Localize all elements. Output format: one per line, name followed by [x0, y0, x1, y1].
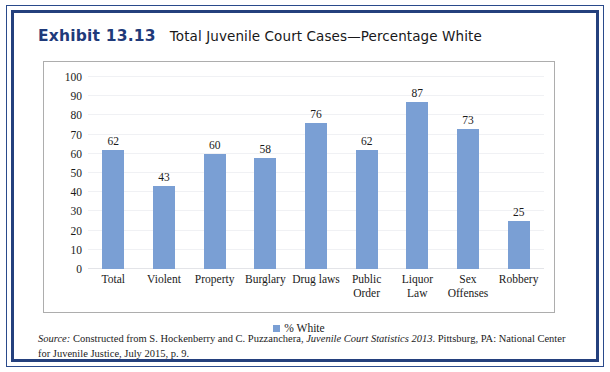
- x-axis-category-label-line: Robbery: [493, 272, 544, 286]
- bar: [457, 129, 479, 269]
- bar-value-label: 58: [260, 143, 272, 155]
- exhibit-title-row: Exhibit 13.13Total Juvenile Court Cases—…: [38, 27, 482, 45]
- x-axis-category-label-line: Sex: [443, 272, 494, 286]
- page-title: Total Juvenile Court Cases—Percentage Wh…: [170, 28, 482, 44]
- bar-group: 62: [88, 77, 139, 269]
- bar: [102, 150, 124, 269]
- x-axis-category-labels: TotalViolentPropertyBurglaryDrug lawsPub…: [88, 272, 544, 312]
- plot-area: 624360587662877325: [88, 77, 544, 269]
- x-axis-category-label: Robbery: [493, 272, 544, 286]
- exhibit-page: Exhibit 13.13Total Juvenile Court Cases—…: [0, 0, 610, 372]
- x-axis-category-label-line: Drug laws: [291, 272, 342, 286]
- y-axis-tick-label: 40: [71, 186, 83, 198]
- source-text-before: Constructed from S. Hockenberry and C. P…: [70, 333, 306, 344]
- bar-group: 43: [139, 77, 190, 269]
- bar-group: 76: [291, 77, 342, 269]
- bar-value-label: 43: [158, 171, 170, 183]
- exhibit-content: Exhibit 13.13Total Juvenile Court Cases—…: [16, 15, 594, 357]
- bar-value-label: 87: [412, 87, 424, 99]
- source-note: Source: Constructed from S. Hockenberry …: [38, 331, 572, 361]
- bar-group: 62: [341, 77, 392, 269]
- bar: [406, 102, 428, 269]
- bar-value-label: 60: [209, 139, 221, 151]
- x-axis-category-label-line: Order: [341, 286, 392, 300]
- exhibit-number-label: Exhibit 13.13: [38, 27, 156, 45]
- bar-group: 25: [493, 77, 544, 269]
- x-axis-category-label: SexOffenses: [443, 272, 494, 300]
- y-axis-tick-label: 60: [71, 148, 83, 160]
- bar-value-label: 62: [361, 135, 373, 147]
- y-axis-tick-label: 70: [71, 129, 83, 141]
- bar-group: 60: [189, 77, 240, 269]
- bar-series-percent-white: 624360587662877325: [88, 77, 544, 269]
- x-axis-category-label-line: Property: [189, 272, 240, 286]
- bar-group: 73: [443, 77, 494, 269]
- x-axis-category-label: Burglary: [240, 272, 291, 286]
- x-axis-category-label-line: Offenses: [443, 286, 494, 300]
- y-axis-tick-labels: 0102030405060708090100: [44, 77, 86, 269]
- y-axis-tick-label: 100: [65, 71, 82, 83]
- source-prefix: Source:: [38, 333, 70, 344]
- source-italic-title: Juvenile Court Statistics 2013: [306, 333, 432, 344]
- bar: [508, 221, 530, 269]
- x-axis-category-label: PublicOrder: [341, 272, 392, 300]
- x-axis-category-label: Violent: [139, 272, 190, 286]
- x-axis-category-label: Total: [88, 272, 139, 286]
- x-axis-category-label-line: Public: [341, 272, 392, 286]
- bar-value-label: 62: [108, 135, 120, 147]
- bar-value-label: 76: [310, 108, 322, 120]
- bar: [356, 150, 378, 269]
- y-axis-tick-label: 30: [71, 205, 83, 217]
- bar: [204, 154, 226, 269]
- y-axis-tick-label: 90: [71, 90, 83, 102]
- y-axis-tick-label: 0: [76, 263, 82, 275]
- x-axis-category-label-line: Liquor Law: [392, 272, 443, 300]
- x-axis-category-label-line: Violent: [139, 272, 190, 286]
- y-axis-tick-label: 20: [71, 225, 83, 237]
- chart-frame: 0102030405060708090100 62436058766287732…: [43, 61, 555, 313]
- x-axis-category-label: Liquor Law: [392, 272, 443, 300]
- chart-plot-wrapper: 0102030405060708090100 62436058766287732…: [44, 62, 554, 312]
- y-axis-tick-label: 80: [71, 109, 83, 121]
- bar-group: 87: [392, 77, 443, 269]
- bar-group: 58: [240, 77, 291, 269]
- x-axis-category-label: Property: [189, 272, 240, 286]
- bar: [153, 186, 175, 269]
- bar: [305, 123, 327, 269]
- y-axis-tick-label: 50: [71, 167, 83, 179]
- y-axis-tick-label: 10: [71, 244, 83, 256]
- bar-value-label: 73: [462, 114, 474, 126]
- bar-value-label: 25: [513, 206, 525, 218]
- bar: [254, 158, 276, 269]
- x-axis-category-label-line: Burglary: [240, 272, 291, 286]
- x-axis-category-label: Drug laws: [291, 272, 342, 286]
- x-axis-category-label-line: Total: [88, 272, 139, 286]
